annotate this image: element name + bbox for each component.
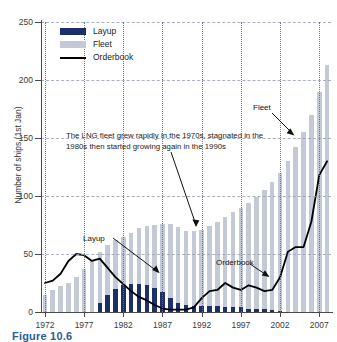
x-tick-1972 bbox=[45, 312, 46, 317]
x-tick-2007 bbox=[319, 312, 320, 317]
x-tick-label-1982: 1982 bbox=[114, 320, 133, 330]
legend-swatch-layup bbox=[60, 28, 86, 35]
x-tick-label-1972: 1972 bbox=[35, 320, 54, 330]
orderbook-callout-label: Orderbook bbox=[216, 258, 254, 267]
x-tick-label-2007: 2007 bbox=[310, 320, 329, 330]
gridline-v-1992 bbox=[202, 22, 203, 312]
layup-callout-label: Layup bbox=[83, 234, 105, 243]
gridline-v-1997 bbox=[241, 22, 242, 312]
x-tick-1992 bbox=[202, 312, 203, 317]
legend-label-layup: Layup bbox=[93, 25, 116, 38]
x-tick-1977 bbox=[84, 312, 85, 317]
y-tick-label-50: 50 bbox=[5, 250, 33, 258]
legend-label-fleet: Fleet bbox=[93, 38, 112, 51]
y-tick-250 bbox=[35, 22, 41, 23]
x-tick-1997 bbox=[241, 312, 242, 317]
y-tick-150 bbox=[35, 138, 41, 139]
y-tick-label-200: 200 bbox=[5, 76, 33, 84]
gridline-v-2002 bbox=[280, 22, 281, 312]
y-tick-0 bbox=[35, 312, 41, 313]
y-tick-50 bbox=[35, 254, 41, 255]
y-axis-line bbox=[41, 20, 42, 313]
x-tick-label-1992: 1992 bbox=[192, 320, 211, 330]
y-tick-200 bbox=[35, 80, 41, 81]
legend-item-orderbook: Orderbook bbox=[60, 51, 133, 64]
gridline-v-1987 bbox=[162, 22, 163, 312]
legend-label-orderbook: Orderbook bbox=[93, 51, 133, 64]
chart-legend: Layup Fleet Orderbook bbox=[60, 25, 133, 64]
x-tick-label-1997: 1997 bbox=[231, 320, 250, 330]
x-tick-label-1977: 1977 bbox=[75, 320, 94, 330]
fleet-callout-label: Fleet bbox=[253, 103, 271, 112]
gridline-v-1977 bbox=[84, 22, 85, 312]
legend-swatch-fleet bbox=[60, 41, 86, 48]
x-tick-1982 bbox=[123, 312, 124, 317]
gridline-v-2007 bbox=[319, 22, 320, 312]
legend-item-layup: Layup bbox=[60, 25, 133, 38]
gridline-v-1982 bbox=[123, 22, 124, 312]
legend-item-fleet: Fleet bbox=[60, 38, 133, 51]
y-tick-label-0: 0 bbox=[5, 308, 33, 316]
legend-swatch-orderbook bbox=[60, 57, 86, 59]
x-tick-2002 bbox=[280, 312, 281, 317]
x-tick-label-2002: 2002 bbox=[271, 320, 290, 330]
y-tick-100 bbox=[35, 196, 41, 197]
gridline-v-1972 bbox=[45, 22, 46, 312]
y-tick-label-250: 250 bbox=[5, 18, 33, 26]
x-tick-label-1987: 1987 bbox=[153, 320, 172, 330]
y-axis-title: Number of ships (1st Jan) bbox=[13, 85, 23, 225]
narrative-annotation: The LNG fleet grew rapidly in the 1970s,… bbox=[66, 131, 281, 152]
figure-caption: Figure 10.6 bbox=[12, 330, 72, 342]
x-tick-1987 bbox=[162, 312, 163, 317]
